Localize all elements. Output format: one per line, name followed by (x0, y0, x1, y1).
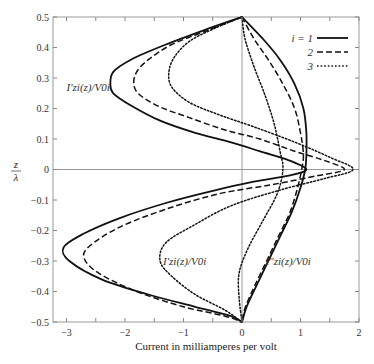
y-tick-label: 0.2 (37, 103, 50, 114)
y-axis-title-z: z (13, 158, 19, 170)
y-axis-title-lambda: λ (13, 171, 19, 183)
x-tick-label: 2 (357, 327, 362, 338)
y-tick-label: 0.4 (37, 42, 50, 53)
y-tick-label: 0.5 (37, 12, 50, 23)
legend-label: i = 1 (292, 32, 313, 44)
legend-label: 2 (308, 46, 314, 58)
y-axis-title: z λ (11, 158, 21, 183)
x-tick-label: 1 (298, 327, 303, 338)
y-tick-label: −0.4 (31, 286, 49, 297)
y-tick-label: −0.1 (31, 195, 49, 206)
curve-annotation: I″zi(z)/V0i (264, 255, 311, 268)
x-tick-label: −2 (120, 327, 131, 338)
curve-annotation: I′zi(z)/V0i (162, 255, 206, 268)
x-tick-label: 0 (240, 327, 245, 338)
x-axis-title: Current in milliamperes per volt (135, 340, 277, 352)
legend-label: 3 (307, 60, 314, 72)
curve-annotation: I′zi(z)/V0i (66, 81, 110, 94)
y-tick-label: −0.3 (31, 256, 49, 267)
y-tick-label: −0.5 (31, 317, 49, 328)
y-tick-label: 0 (44, 164, 49, 175)
x-tick-label: −1 (178, 327, 189, 338)
chart: −0.5−0.4−0.3−0.2−0.100.10.20.30.40.5−3−2… (0, 0, 374, 364)
y-tick-label: 0.1 (37, 134, 50, 145)
x-tick-label: −3 (61, 327, 72, 338)
y-tick-label: −0.2 (31, 225, 49, 236)
y-tick-label: 0.3 (37, 73, 50, 84)
